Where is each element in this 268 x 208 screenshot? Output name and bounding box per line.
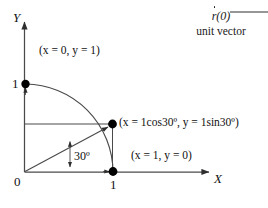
vector-arrow-icon: [228, 8, 268, 17]
vector-symbol: r(0): [212, 8, 231, 23]
marker-point-0-1: [21, 80, 29, 88]
marker-point-1-0: [109, 167, 118, 176]
unit-circle-arc: [26, 84, 114, 172]
unit-vector-diagram: Y X 0 1 1 (x = 0, y = 1) (x = 1cos30º, y…: [0, 0, 268, 208]
angle-label-30-degrees: 30º: [74, 150, 90, 162]
y-axis-tick-label-1: 1: [12, 77, 19, 90]
label-point-0-1: (x = 0, y = 1): [39, 45, 100, 57]
label-point-1-0: (x = 1, y = 0): [131, 150, 192, 162]
unit-vector-note: r(0) unit vector: [178, 6, 264, 38]
origin-label: 0: [14, 175, 21, 188]
y-axis-label: Y: [13, 11, 20, 24]
marker-point-30-degrees: [108, 120, 117, 129]
radius-vector-arrow: [25, 127, 108, 172]
x-axis-tick-label-1: 1: [110, 178, 117, 191]
vector-symbol-text: r(0): [212, 9, 231, 23]
unit-vector-caption: unit vector: [178, 25, 264, 38]
dot-accent-icon: [214, 6, 216, 8]
vector-symbol-base: r(0): [212, 10, 231, 23]
label-point-30-degrees: (x = 1cos30º, y = 1sin30º): [119, 117, 239, 129]
x-axis-label: X: [214, 172, 222, 185]
